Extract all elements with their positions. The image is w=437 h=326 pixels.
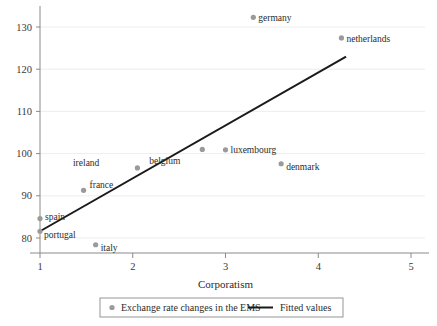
chart-legend[interactable]: Exchange rate changes in the EMSFitted v… (100, 298, 343, 317)
chart-container: 8090100110120130 12345 portugalspainfran… (0, 0, 437, 326)
y-tick-label: 120 (16, 64, 32, 75)
data-points-group (37, 15, 344, 248)
data-point-label-spain: spain (45, 212, 65, 222)
data-point-label-denmark: denmark (286, 162, 319, 172)
data-point-label-luxembourg: luxembourg (231, 145, 277, 155)
legend-label-fitted[interactable]: Fitted values (280, 302, 331, 313)
data-point-germany[interactable] (251, 15, 256, 20)
data-point-denmark[interactable] (279, 161, 284, 166)
data-point-label-italy: italy (101, 243, 118, 253)
data-point-label-ireland: ireland (73, 158, 100, 168)
data-point-label-france: france (90, 180, 114, 190)
data-point-france[interactable] (81, 188, 86, 193)
x-axis-tick-labels: 12345 (37, 261, 413, 272)
y-tick-label: 110 (17, 106, 32, 117)
legend-marker-icon (109, 305, 114, 310)
data-point-label-portugal: portugal (44, 230, 76, 240)
x-axis-title: Corporatism (198, 278, 253, 290)
data-point-belgium[interactable] (200, 147, 205, 152)
x-tick-label: 5 (408, 261, 413, 272)
data-point-spain[interactable] (37, 216, 42, 221)
x-tick-label: 4 (316, 261, 322, 272)
data-point-netherlands[interactable] (339, 35, 344, 40)
legend-label-scatter[interactable]: Exchange rate changes in the EMS (121, 302, 261, 313)
fitted-values-line (40, 57, 346, 232)
y-tick-label: 130 (16, 22, 32, 33)
data-point-labels-group: portugalspainfranceitalyirelandbelgiumlu… (44, 13, 391, 252)
data-point-label-germany: germany (258, 13, 291, 23)
scatter-plot: 8090100110120130 12345 portugalspainfran… (0, 0, 437, 326)
data-point-label-belgium: belgium (149, 156, 181, 166)
data-point-ireland[interactable] (135, 165, 140, 170)
y-axis-tick-labels: 8090100110120130 (16, 22, 32, 244)
data-point-label-netherlands: netherlands (346, 34, 390, 44)
y-tick-label: 100 (16, 148, 32, 159)
gridlines-group (40, 27, 425, 238)
y-tick-label: 80 (22, 233, 33, 244)
x-tick-label: 2 (130, 261, 135, 272)
data-point-italy[interactable] (93, 242, 98, 247)
x-tick-label: 1 (37, 261, 42, 272)
data-point-portugal[interactable] (37, 229, 42, 234)
x-tick-label: 3 (223, 261, 228, 272)
y-tick-label: 90 (22, 190, 33, 201)
data-point-luxembourg[interactable] (223, 147, 228, 152)
fit-line (40, 57, 346, 232)
